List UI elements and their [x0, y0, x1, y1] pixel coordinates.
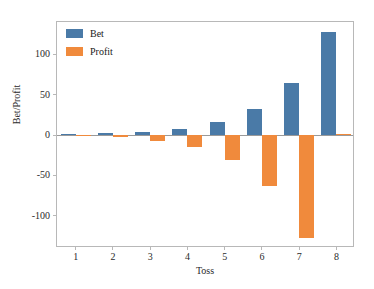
y-tick-mark [53, 54, 57, 55]
x-tick-label: 3 [138, 251, 162, 262]
x-axis-label: Toss [56, 265, 354, 276]
x-tick-label: 5 [213, 251, 237, 262]
x-tick-mark [299, 246, 300, 250]
x-tick-mark [112, 246, 113, 250]
x-tick-label: 8 [324, 251, 348, 262]
legend-swatch-profit [66, 47, 83, 56]
bar-bet-8 [321, 32, 336, 135]
bar-profit-4 [187, 135, 202, 147]
bar-profit-8 [336, 134, 351, 135]
bar-profit-3 [150, 135, 165, 141]
chart-legend: BetProfit [66, 26, 113, 62]
x-tick-mark [187, 246, 188, 250]
bar-bet-4 [172, 129, 187, 135]
x-tick-mark [75, 246, 76, 250]
bar-profit-6 [262, 135, 277, 186]
bar-profit-1 [76, 135, 91, 136]
bar-bet-6 [247, 109, 262, 135]
x-tick-label: 4 [175, 251, 199, 262]
y-tick-mark [53, 94, 57, 95]
bar-bet-5 [210, 122, 225, 135]
bar-bet-2 [98, 133, 113, 135]
x-tick-label: 1 [64, 251, 88, 262]
legend-swatch-bet [66, 29, 83, 38]
y-tick-mark [53, 215, 57, 216]
x-tick-label: 6 [250, 251, 274, 262]
y-tick-mark [53, 175, 57, 176]
x-tick-mark [261, 246, 262, 250]
x-tick-mark [224, 246, 225, 250]
y-tick-label: 0 [45, 127, 50, 143]
y-tick-label: 100 [35, 46, 50, 62]
x-tick-label: 2 [101, 251, 125, 262]
bar-profit-5 [225, 135, 240, 160]
y-tick-label: -50 [37, 167, 50, 183]
y-tick-label: -100 [32, 208, 50, 224]
y-axis-label: Bet/Profit [11, 65, 22, 145]
bar-profit-7 [299, 135, 314, 238]
x-tick-label: 7 [287, 251, 311, 262]
x-tick-mark [336, 246, 337, 250]
legend-label-profit: Profit [90, 47, 113, 57]
bar-bet-7 [284, 83, 299, 135]
y-tick-label: 50 [40, 87, 50, 103]
figure: Bet/Profit 100500-50-100 12345678 BetPro… [0, 0, 374, 289]
bar-profit-2 [113, 135, 128, 137]
x-tick-mark [150, 246, 151, 250]
y-tick-mark [53, 135, 57, 136]
bar-bet-1 [61, 134, 76, 135]
legend-item-profit[interactable]: Profit [66, 44, 113, 59]
legend-item-bet[interactable]: Bet [66, 26, 113, 41]
bar-bet-3 [135, 132, 150, 135]
legend-label-bet: Bet [90, 29, 104, 39]
